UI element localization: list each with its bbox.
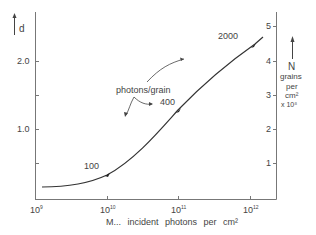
right-axis-scale: x 10⁸ [281,101,297,108]
n-axis-arrow-icon [291,36,295,59]
point-label-400: 400 [160,98,175,107]
left-axis-label: d [19,24,25,34]
right-tick-5: 5 [266,22,271,31]
right-tick-2: 2 [266,125,271,134]
x-axis-title: M... incident photons per cm² [106,218,238,227]
point-label-100: 100 [84,162,99,171]
x-tick-base: 10 [30,205,40,215]
point-label-2000: 2000 [218,32,238,41]
x-tick-base: 10 [100,205,110,215]
x-tick-exp: 10 [110,204,116,210]
left-tick-1: 1.0 [17,125,30,134]
right-tick-1: 1 [266,159,271,168]
right-axis-grains: grains [280,73,302,81]
x-tick-1e11: 1011 [171,205,186,215]
right-tick-4: 4 [266,57,271,66]
right-tick-3: 3 [266,91,271,100]
left-tick-2: 2.0 [17,57,30,66]
photons-grain-label: photons/grain [116,86,171,95]
right-axis-per: per [286,83,298,91]
x-tick-exp: 11 [181,204,186,210]
x-tick-1e10: 1010 [100,205,116,215]
x-tick-exp: 12 [253,204,259,210]
density-curve [42,37,263,187]
x-tick-exp: 9 [40,204,43,210]
x-tick-base: 10 [171,205,181,215]
x-tick-base: 10 [243,205,253,215]
right-axis-unit: cm² [285,92,298,100]
curve-markers [105,43,256,177]
x-tick-1e12: 1012 [243,205,259,215]
chart-canvas [0,0,316,235]
d-axis-arrow-icon [13,13,17,35]
right-axis-n: N [288,62,295,72]
x-tick-1e9: 109 [30,205,43,215]
